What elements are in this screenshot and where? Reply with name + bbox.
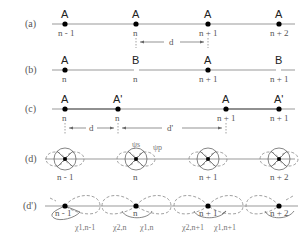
site-index: n + 1 <box>217 113 236 123</box>
site-index: n + 1 <box>270 74 289 84</box>
orbital-p-label: ψp <box>153 143 162 152</box>
orbital-s-label: ψs <box>132 140 140 149</box>
panel-label-c: (c) <box>25 103 36 115</box>
panel-c: (c) A A' A A' n n n + 1 n + 1 d d' <box>25 93 295 134</box>
chi-label: χ2,n <box>112 223 127 232</box>
site-index: n + 1 <box>199 74 218 84</box>
atom-dot <box>115 106 120 111</box>
site-index: n <box>115 113 120 123</box>
atom-dot <box>276 21 281 26</box>
site-index: n <box>62 74 67 84</box>
atom-label: B <box>275 54 282 66</box>
panel-label-dprime: (d') <box>23 200 36 212</box>
atom-label: A <box>132 8 140 20</box>
panel-a: (a) A A A A n - 1 n n + 1 n + 2 d <box>25 8 295 48</box>
panel-b: (b) A B A B n n n + 1 n + 1 <box>25 54 295 84</box>
atom-dot <box>62 106 67 111</box>
site-index: n + 2 <box>270 28 289 38</box>
site-index: n - 1 <box>57 172 74 182</box>
panel-label-a: (a) <box>25 18 36 30</box>
atom-dot <box>223 106 228 111</box>
panel-d: (d) <box>25 140 298 182</box>
chi-label: χ1,n <box>139 223 154 232</box>
site-index: n <box>133 172 138 182</box>
spacing-label: d <box>89 123 94 133</box>
spacing-label: d' <box>167 123 174 133</box>
atom-dot <box>62 67 67 72</box>
panel-label-d: (d) <box>25 153 37 165</box>
atom-label: A <box>61 54 69 66</box>
site-index: n <box>133 74 138 84</box>
atom-label: A <box>204 54 212 66</box>
site-index: n - 1 <box>58 28 75 38</box>
site-index: n <box>133 28 138 38</box>
atom-label: A <box>275 8 283 20</box>
chain-diagram: (a) A A A A n - 1 n n + 1 n + 2 d (b) A … <box>0 0 305 241</box>
chi-label: χ1,n+1 <box>213 223 236 232</box>
atom-label: A' <box>113 93 122 105</box>
atom-label: B <box>132 54 139 66</box>
site-index: n + 1 <box>270 113 289 123</box>
atom-dot <box>205 67 210 72</box>
panel-dprime: (d') n - 1 n n + 1 n + 2 χ1,n-1 χ2,n χ1,… <box>23 196 298 233</box>
atom-dot <box>205 21 210 26</box>
site-index: n + 2 <box>270 208 289 218</box>
atom-label: A <box>204 8 212 20</box>
chi-label: χ1,n-1 <box>74 223 95 232</box>
atom-label: A <box>61 93 69 105</box>
site-index: n + 2 <box>270 172 289 182</box>
atom-dot <box>133 21 138 26</box>
atom-label: A <box>222 93 230 105</box>
site-index: n - 1 <box>55 208 72 218</box>
site-index: n <box>133 208 138 218</box>
panel-label-b: (b) <box>25 64 37 76</box>
atom-label: A' <box>274 93 283 105</box>
site-index: n <box>62 113 67 123</box>
site-index: n + 1 <box>199 172 218 182</box>
atom-dot <box>62 21 67 26</box>
atom-label: A <box>61 8 69 20</box>
chi-label: χ2,n+1 <box>181 223 204 232</box>
site-index: n + 1 <box>199 28 218 38</box>
atom-dot <box>276 106 281 111</box>
spacing-label: d <box>169 37 174 47</box>
site-index: n + 1 <box>199 208 218 218</box>
